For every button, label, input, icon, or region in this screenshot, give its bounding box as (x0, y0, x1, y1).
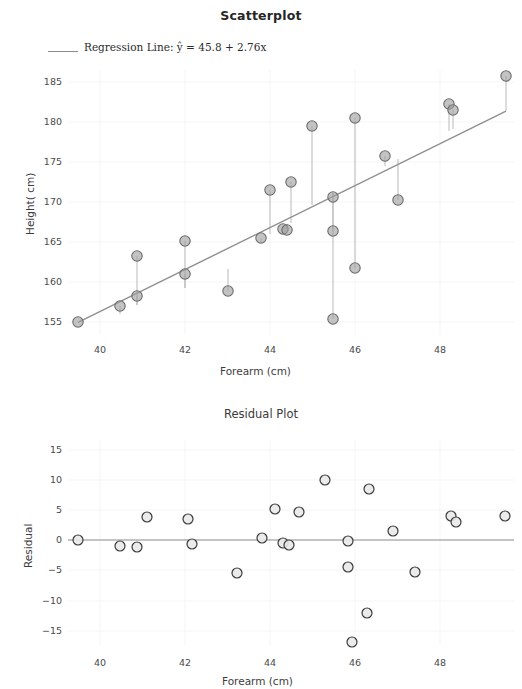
data-point (284, 540, 294, 550)
data-point (320, 475, 330, 485)
data-point (73, 535, 83, 545)
data-point (362, 608, 372, 618)
residual-ytick-neg5: −5 (30, 564, 62, 575)
data-point (501, 71, 511, 81)
data-point (270, 504, 280, 514)
data-point (73, 317, 83, 327)
residual-plot-title: Residual Plot (0, 407, 522, 421)
data-point (451, 517, 461, 527)
residual-xtick-40: 40 (90, 657, 110, 668)
scatter-residual-stems (78, 76, 506, 322)
data-point (132, 542, 142, 552)
regression-line (78, 111, 506, 322)
residual-ytick-neg15: −15 (30, 625, 62, 636)
data-point (328, 226, 338, 236)
data-point (343, 562, 353, 572)
residual-xaxis-label: Forearm (cm) (222, 675, 293, 687)
data-point (187, 539, 197, 549)
data-point (180, 269, 190, 279)
data-point (364, 484, 374, 494)
scatter-points (73, 71, 511, 327)
residual-yaxis-label: Residual (22, 524, 34, 568)
residual-xtick-42: 42 (175, 657, 195, 668)
data-point (180, 236, 190, 246)
data-point (223, 286, 233, 296)
data-point (347, 637, 357, 647)
data-point (183, 514, 193, 524)
data-point (328, 314, 338, 324)
data-point (132, 291, 142, 301)
data-point (115, 541, 125, 551)
data-point (282, 225, 292, 235)
residual-points (73, 475, 510, 647)
data-point (286, 177, 296, 187)
figure-canvas: Scatterplot Regression Line: ŷ = 45.8 + … (0, 0, 522, 689)
data-point (132, 251, 142, 261)
data-point (500, 511, 510, 521)
data-point (343, 536, 353, 546)
data-point (256, 233, 266, 243)
data-point (388, 526, 398, 536)
data-point (257, 533, 267, 543)
residual-ytick-0: 0 (30, 534, 62, 545)
residual-xtick-46: 46 (345, 657, 365, 668)
data-point (393, 195, 403, 205)
data-point (328, 192, 338, 202)
data-point (115, 301, 125, 311)
residual-ytick-10: 10 (30, 474, 62, 485)
residual-ytick-5: 5 (30, 504, 62, 515)
data-point (294, 507, 304, 517)
data-point (410, 567, 420, 577)
data-point (265, 185, 275, 195)
data-point (142, 512, 152, 522)
data-point (232, 568, 242, 578)
plot-vectors (0, 0, 522, 689)
residual-ytick-15: 15 (30, 444, 62, 455)
data-point (350, 263, 360, 273)
data-point (350, 113, 360, 123)
residual-xtick-44: 44 (260, 657, 280, 668)
data-point (448, 105, 458, 115)
data-point (380, 151, 390, 161)
residual-xtick-48: 48 (430, 657, 450, 668)
residual-ytick-neg10: −10 (30, 595, 62, 606)
data-point (307, 121, 317, 131)
